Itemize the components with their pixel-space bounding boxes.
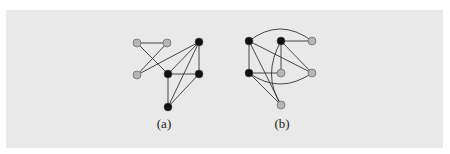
node-black [245, 69, 253, 77]
edge [168, 74, 199, 107]
graph-diagram [0, 0, 450, 154]
node-gray [163, 39, 171, 47]
graph-b [245, 29, 316, 109]
edge [281, 41, 312, 73]
node-gray [308, 69, 316, 77]
edge [249, 73, 281, 105]
node-gray [308, 37, 316, 45]
graph-b-label: (b) [274, 116, 289, 132]
node-black [245, 37, 253, 45]
edge [168, 42, 199, 74]
node-black [195, 70, 203, 78]
graph-a-label: (a) [157, 116, 171, 132]
node-gray [277, 69, 285, 77]
node-black [164, 70, 172, 78]
node-black [277, 37, 285, 45]
node-black [164, 103, 172, 111]
graph-a [133, 38, 203, 111]
node-black [195, 38, 203, 46]
node-gray [133, 39, 141, 47]
edge [168, 42, 199, 107]
node-gray [133, 71, 141, 79]
edge [249, 41, 312, 73]
node-gray [277, 101, 285, 109]
